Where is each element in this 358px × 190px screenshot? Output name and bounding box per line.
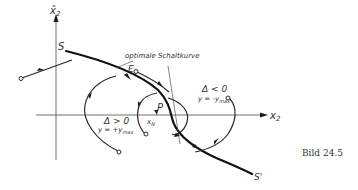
- point-E-marker: [134, 70, 138, 74]
- point-E-label: E: [128, 64, 134, 74]
- figure-caption: Bild 24.5: [302, 148, 343, 158]
- switching-curve-start-label: S: [58, 41, 65, 52]
- trajectory-left: [19, 60, 72, 81]
- region-negative: Δ < 0 y = -ymax: [197, 84, 230, 104]
- arrow-icon: [157, 81, 163, 87]
- axis-arrow-right-icon: [260, 113, 268, 118]
- vertical-axis: x̂2: [49, 5, 61, 160]
- condition-positive: Δ > 0: [103, 116, 129, 126]
- point-P-group: P xN: [146, 102, 164, 127]
- point-P-label: P: [157, 102, 164, 113]
- arrow-icon: [154, 110, 158, 115]
- control-negative: y = -ymax: [197, 95, 230, 104]
- control-positive: y = +ymax: [97, 126, 133, 135]
- switching-curve-end-label: S': [254, 172, 262, 182]
- start-point: [19, 77, 23, 81]
- phase-plane-diagram: x̂2 x2 S S' optimale Schaltkurve E: [0, 0, 358, 190]
- trajectory-E: E: [128, 64, 169, 92]
- trajectory-negative-outer: [195, 96, 235, 152]
- trajectory-positive-inner: [138, 93, 157, 136]
- region-positive: Δ > 0 y = +ymax: [97, 116, 133, 135]
- arrow-icon: [124, 73, 131, 80]
- point-xN-label: xN: [146, 118, 155, 127]
- annotation-text: optimale Schaltkurve: [125, 52, 200, 60]
- y-axis-label: x̂2: [49, 5, 61, 18]
- start-point: [144, 132, 148, 136]
- start-point: [117, 150, 121, 154]
- x-axis-label: x2: [269, 110, 281, 123]
- condition-negative: Δ < 0: [201, 84, 227, 94]
